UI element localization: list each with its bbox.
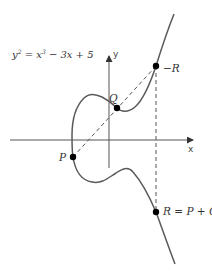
equation-equals: = [21, 49, 36, 60]
point-Q [114, 105, 120, 111]
y-axis-label: y [113, 50, 118, 59]
point-R [153, 209, 159, 215]
elliptic-curve-diagram: y2 = x3 − 3x + 5 y x P Q −R R = P + Q [0, 0, 212, 278]
diagram-canvas [0, 0, 212, 278]
curve-lower-branch [73, 157, 175, 264]
label-neg-R: −R [163, 63, 180, 74]
equation-rest: − 3x + 5 [46, 49, 94, 60]
label-Q: Q [109, 93, 118, 104]
point-P [70, 154, 76, 160]
label-P: P [59, 152, 66, 163]
label-R: R = P + Q [163, 206, 212, 217]
secant-line [73, 66, 156, 157]
x-axis-label: x [188, 145, 193, 154]
point-neg-R [153, 63, 159, 69]
curve-equation: y2 = x3 − 3x + 5 [12, 49, 94, 60]
curve-upper-branch [72, 14, 174, 157]
